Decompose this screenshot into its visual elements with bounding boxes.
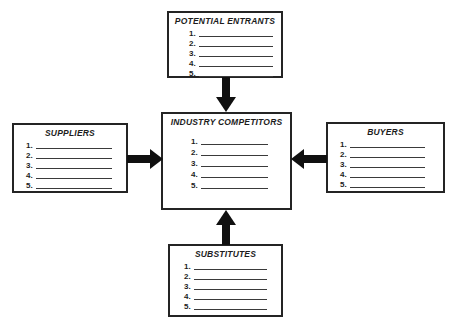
blank-line [350, 147, 425, 148]
box-title-suppliers: SUPPLIERS [14, 128, 126, 139]
blank-list: 1. 2. 3. 4. 5. [189, 29, 273, 79]
blank-line [36, 168, 112, 169]
list-item: 3. [340, 160, 425, 170]
list-item: 4. [189, 59, 273, 69]
up-arrow-icon [222, 225, 230, 245]
box-suppliers: SUPPLIERS 1. 2. 3. 4. 5. [12, 123, 128, 193]
item-number: 5. [340, 180, 347, 190]
list-item: 4. [191, 169, 268, 180]
item-number: 2. [26, 151, 33, 161]
list-item: 1. [26, 141, 112, 151]
item-number: 1. [26, 141, 33, 151]
item-number: 2. [184, 272, 191, 282]
box-buyers: BUYERS 1. 2. 3. 4. 5. [326, 122, 445, 193]
blank-list: 1. 2. 3. 4. 5. [191, 136, 268, 191]
blank-line [350, 187, 425, 188]
item-number: 3. [340, 160, 347, 170]
five-forces-diagram: POTENTIAL ENTRANTS 1. 2. 3. 4. 5. SUPPLI… [0, 0, 452, 323]
right-arrow-icon [127, 155, 151, 163]
blank-list: 1. 2. 3. 4. 5. [340, 140, 425, 190]
blank-line [199, 66, 273, 67]
blank-line [36, 178, 112, 179]
list-item: 2. [191, 147, 268, 158]
blank-line [36, 188, 112, 189]
blank-line [201, 177, 268, 178]
blank-line [201, 188, 268, 189]
list-item: 2. [184, 272, 267, 282]
list-item: 3. [189, 49, 273, 59]
item-number: 4. [191, 170, 198, 180]
item-number: 4. [189, 59, 196, 69]
list-item: 3. [26, 161, 112, 171]
left-arrow-icon [303, 155, 327, 163]
box-title-buyers: BUYERS [328, 127, 443, 138]
list-item: 4. [26, 171, 112, 181]
list-item: 1. [189, 29, 273, 39]
list-item: 3. [184, 282, 267, 292]
list-item: 1. [340, 140, 425, 150]
blank-line [36, 148, 112, 149]
list-item: 2. [189, 39, 273, 49]
blank-line [194, 289, 267, 290]
blank-line [350, 157, 425, 158]
list-item: 1. [184, 262, 267, 272]
blank-line [350, 167, 425, 168]
item-number: 1. [191, 137, 198, 147]
list-item: 4. [340, 170, 425, 180]
box-title-substitutes: SUBSTITUTES [170, 249, 281, 260]
item-number: 3. [26, 161, 33, 171]
down-arrow-icon [222, 77, 230, 98]
box-title-industry-competitors: INDUSTRY COMPETITORS [163, 117, 290, 128]
item-number: 3. [191, 159, 198, 169]
blank-line [194, 299, 267, 300]
item-number: 4. [340, 170, 347, 180]
blank-line [199, 76, 273, 77]
blank-list: 1. 2. 3. 4. 5. [184, 262, 267, 312]
box-substitutes: SUBSTITUTES 1. 2. 3. 4. 5. [168, 244, 283, 317]
item-number: 1. [189, 29, 196, 39]
blank-line [201, 155, 268, 156]
item-number: 5. [189, 69, 196, 79]
list-item: 2. [340, 150, 425, 160]
box-title-potential-entrants: POTENTIAL ENTRANTS [169, 16, 281, 27]
blank-line [199, 46, 273, 47]
blank-line [194, 279, 267, 280]
item-number: 3. [184, 282, 191, 292]
item-number: 3. [189, 49, 196, 59]
list-item: 5. [191, 180, 268, 191]
blank-line [194, 309, 267, 310]
blank-line [199, 36, 273, 37]
blank-line [201, 144, 268, 145]
item-number: 2. [189, 39, 196, 49]
blank-line [350, 177, 425, 178]
item-number: 2. [191, 148, 198, 158]
right-arrow-head-icon [150, 149, 163, 169]
blank-line [201, 166, 268, 167]
list-item: 5. [340, 180, 425, 190]
down-arrow-head-icon [216, 97, 236, 112]
item-number: 1. [184, 262, 191, 272]
item-number: 4. [26, 171, 33, 181]
blank-line [194, 269, 267, 270]
item-number: 5. [191, 181, 198, 191]
list-item: 5. [26, 181, 112, 191]
list-item: 1. [191, 136, 268, 147]
item-number: 4. [184, 292, 191, 302]
blank-list: 1. 2. 3. 4. 5. [26, 141, 112, 191]
blank-line [199, 56, 273, 57]
item-number: 2. [340, 150, 347, 160]
list-item: 5. [189, 69, 273, 79]
box-potential-entrants: POTENTIAL ENTRANTS 1. 2. 3. 4. 5. [167, 11, 283, 78]
list-item: 5. [184, 302, 267, 312]
list-item: 2. [26, 151, 112, 161]
box-industry-competitors: INDUSTRY COMPETITORS 1. 2. 3. 4. 5. [161, 112, 292, 210]
list-item: 3. [191, 158, 268, 169]
list-item: 4. [184, 292, 267, 302]
left-arrow-head-icon [291, 149, 304, 169]
up-arrow-head-icon [216, 210, 236, 225]
item-number: 5. [184, 302, 191, 312]
item-number: 1. [340, 140, 347, 150]
blank-line [36, 158, 112, 159]
item-number: 5. [26, 181, 33, 191]
